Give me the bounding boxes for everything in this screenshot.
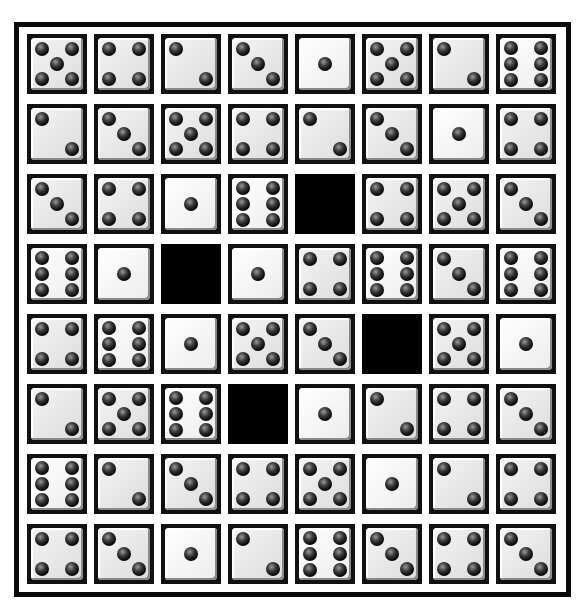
die-cell[interactable] — [429, 524, 489, 584]
die-cell[interactable] — [295, 104, 355, 164]
die-cell[interactable] — [429, 34, 489, 94]
pip-icon — [35, 392, 49, 406]
blank-cell[interactable] — [295, 174, 355, 234]
die-cell[interactable] — [362, 454, 422, 514]
pip-icon — [534, 267, 548, 281]
die-cell[interactable] — [429, 454, 489, 514]
pip-icon — [333, 252, 347, 266]
die-cell[interactable] — [362, 524, 422, 584]
pip-icon — [437, 562, 451, 576]
die-cell[interactable] — [496, 34, 556, 94]
die-cell[interactable] — [228, 314, 288, 374]
pip-icon — [65, 267, 79, 281]
die-cell[interactable] — [496, 104, 556, 164]
pip-icon — [504, 492, 518, 506]
pip-icon — [102, 212, 116, 226]
pip-icon — [467, 532, 481, 546]
pip-icon — [534, 251, 548, 265]
die-cell[interactable] — [94, 384, 154, 444]
die-cell[interactable] — [94, 524, 154, 584]
die-face-1 — [165, 528, 217, 580]
die-cell[interactable] — [161, 104, 221, 164]
blank-cell[interactable] — [228, 384, 288, 444]
die-cell[interactable] — [429, 384, 489, 444]
die-cell[interactable] — [94, 34, 154, 94]
die-face-5 — [433, 178, 485, 230]
die-cell[interactable] — [362, 244, 422, 304]
pip-icon — [199, 142, 213, 156]
die-cell[interactable] — [496, 524, 556, 584]
pip-icon — [102, 532, 116, 546]
die-cell[interactable] — [429, 174, 489, 234]
pip-icon — [266, 112, 280, 126]
pip-icon — [65, 251, 79, 265]
blank-cell[interactable] — [362, 314, 422, 374]
die-cell[interactable] — [161, 314, 221, 374]
die-cell[interactable] — [228, 524, 288, 584]
die-cell[interactable] — [295, 454, 355, 514]
pip-icon — [452, 337, 466, 351]
die-cell[interactable] — [228, 104, 288, 164]
die-cell[interactable] — [362, 104, 422, 164]
die-cell[interactable] — [94, 314, 154, 374]
pip-icon — [65, 42, 79, 56]
die-face-4 — [299, 248, 351, 300]
die-cell[interactable] — [295, 34, 355, 94]
die-cell[interactable] — [27, 104, 87, 164]
die-cell[interactable] — [27, 244, 87, 304]
die-cell[interactable] — [161, 174, 221, 234]
die-cell[interactable] — [295, 384, 355, 444]
die-cell[interactable] — [161, 454, 221, 514]
die-cell[interactable] — [228, 174, 288, 234]
pip-icon — [467, 282, 481, 296]
pip-icon — [117, 267, 131, 281]
pip-icon — [400, 182, 414, 196]
pip-icon — [318, 407, 332, 421]
die-cell[interactable] — [27, 34, 87, 94]
die-cell[interactable] — [496, 244, 556, 304]
pip-icon — [169, 42, 183, 56]
die-cell[interactable] — [94, 174, 154, 234]
die-cell[interactable] — [161, 384, 221, 444]
die-cell[interactable] — [27, 384, 87, 444]
die-face-5 — [299, 458, 351, 510]
die-cell[interactable] — [228, 454, 288, 514]
pip-icon — [35, 562, 49, 576]
pip-icon — [50, 57, 64, 71]
die-cell[interactable] — [27, 314, 87, 374]
die-cell[interactable] — [429, 104, 489, 164]
blank-cell[interactable] — [161, 244, 221, 304]
die-cell[interactable] — [362, 174, 422, 234]
die-cell[interactable] — [429, 314, 489, 374]
pip-icon — [303, 282, 317, 296]
die-face-3 — [165, 458, 217, 510]
die-cell[interactable] — [161, 524, 221, 584]
die-cell[interactable] — [295, 314, 355, 374]
pip-icon — [236, 322, 250, 336]
die-cell[interactable] — [496, 384, 556, 444]
pip-icon — [65, 477, 79, 491]
die-cell[interactable] — [94, 454, 154, 514]
die-cell[interactable] — [161, 34, 221, 94]
die-cell[interactable] — [496, 174, 556, 234]
die-cell[interactable] — [94, 244, 154, 304]
die-cell[interactable] — [27, 524, 87, 584]
die-cell[interactable] — [228, 244, 288, 304]
pip-icon — [236, 352, 250, 366]
pip-icon — [132, 392, 146, 406]
die-cell[interactable] — [362, 34, 422, 94]
die-cell[interactable] — [94, 104, 154, 164]
die-cell[interactable] — [295, 244, 355, 304]
die-cell[interactable] — [295, 524, 355, 584]
pip-icon — [132, 321, 146, 335]
die-cell[interactable] — [27, 174, 87, 234]
die-cell[interactable] — [362, 384, 422, 444]
pip-icon — [333, 352, 347, 366]
die-face-5 — [433, 318, 485, 370]
die-cell[interactable] — [228, 34, 288, 94]
die-face-1 — [165, 318, 217, 370]
die-cell[interactable] — [496, 314, 556, 374]
die-cell[interactable] — [496, 454, 556, 514]
die-cell[interactable] — [27, 454, 87, 514]
die-cell[interactable] — [429, 244, 489, 304]
